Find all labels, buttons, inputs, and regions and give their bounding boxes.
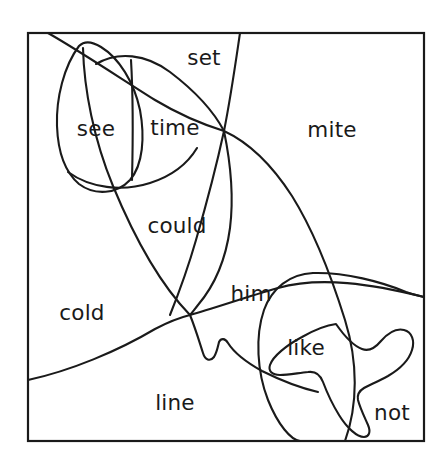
figure-root: set see time mite could him cold like li… bbox=[0, 0, 446, 462]
region-label-mite: mite bbox=[307, 117, 356, 142]
region-label-line: line bbox=[155, 390, 195, 415]
region-diagram-svg: set see time mite could him cold like li… bbox=[0, 0, 446, 462]
region-label-see: see bbox=[77, 116, 115, 141]
region-label-cold: cold bbox=[59, 300, 104, 325]
region-label-him: him bbox=[230, 281, 271, 306]
region-label-could: could bbox=[147, 213, 206, 238]
region-label-set: set bbox=[187, 45, 220, 70]
region-label-time: time bbox=[150, 115, 199, 140]
region-label-not: not bbox=[374, 400, 410, 425]
region-label-like: like bbox=[287, 335, 325, 360]
